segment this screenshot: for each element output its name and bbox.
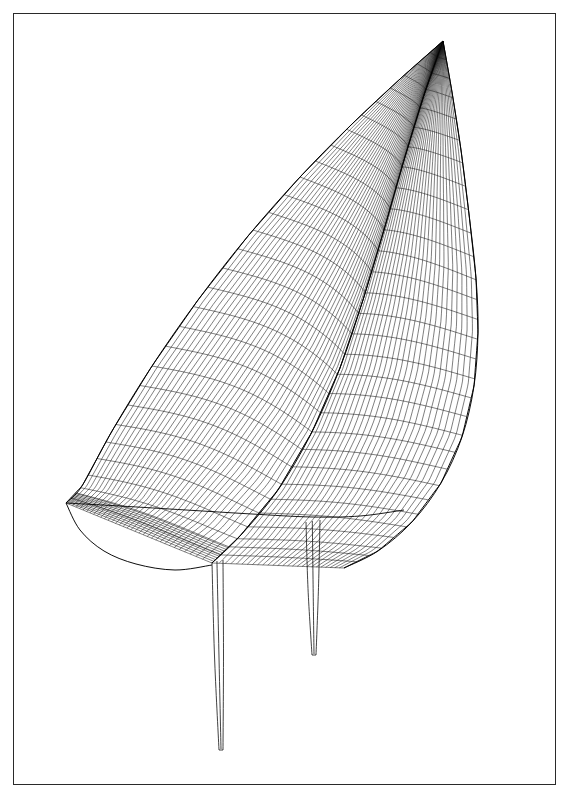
hull-feature-lines: [66, 493, 404, 570]
rudder-fin-trailing-edge: [223, 560, 224, 750]
hull-station-port-16: [208, 287, 345, 354]
hull-station-stbd-19: [320, 413, 462, 436]
hull-waterline-port-30: [80, 41, 443, 509]
hull-station-stbd-13: [365, 293, 477, 319]
hull-waterline-port-15: [135, 41, 443, 531]
hull-station-stbd-23: [281, 484, 428, 500]
transom-strake-9: [75, 493, 228, 547]
hull-station-port-24: [106, 442, 270, 499]
hull-waterline-port-20: [115, 41, 443, 523]
hull-waterline-port-23: [104, 41, 443, 519]
hull-station-port-22: [128, 405, 292, 467]
hull-waterline-port-29: [83, 41, 443, 510]
hull-waterline-stbd-21: [321, 41, 453, 567]
drawing-page: [0, 0, 573, 812]
hull-waterline-stbd-14: [288, 41, 443, 566]
hull-station-stbd-30: [212, 563, 344, 568]
hull-waterline-port-16: [131, 41, 443, 530]
hull-waterline-stbd-6: [247, 41, 443, 564]
transom-bottom-edge: [66, 503, 212, 570]
keel-fin-trailing-edge: [316, 520, 320, 655]
hull-station-stbd-16: [345, 354, 475, 378]
hull-wireframe-drawing: [0, 0, 573, 812]
hull-station-stbd-24: [270, 499, 417, 514]
keel-fin-thickness-line: [312, 521, 314, 654]
hull-station-stbd-22: [292, 467, 439, 486]
